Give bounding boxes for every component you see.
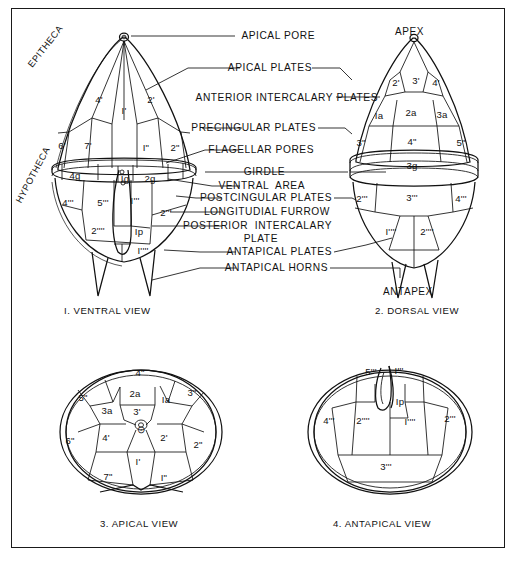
plate-label-v-4p: 4' — [95, 94, 103, 105]
plate-label-d-3a: 3a — [436, 109, 447, 120]
plate-label-d-1a: Ia — [375, 110, 383, 121]
plate-label-d-3p: 3' — [412, 75, 420, 86]
plate-label-a-1pp: I" — [161, 472, 167, 483]
plate-label-a-3pp: 3" — [187, 387, 196, 398]
label-antapex: ANTAPEX — [383, 286, 433, 297]
plate-label-d-2a: 2a — [405, 107, 416, 118]
plate-label-v-2pppp: 2'''' — [91, 225, 105, 236]
callout-longitudial-furrow: LONGITUDIAL FURROW — [204, 206, 330, 217]
caption-ventral-view: I. VENTRAL VIEW — [64, 305, 151, 316]
plate-label-v-2p: 2' — [147, 94, 155, 105]
callout-apical-pore: APICAL PORE — [241, 30, 315, 41]
plate-label-a-4pp: 4" — [135, 367, 144, 378]
plate-label-a-pore: ⊙ — [137, 424, 145, 435]
plate-label-ap-2pppp: 2'''' — [356, 415, 370, 426]
plate-label-a-3a: 3a — [101, 405, 112, 416]
figure-page: APICAL PORE APICAL PLATES ANTERIOR INTER… — [0, 0, 517, 563]
ventral-view-drawing — [52, 33, 196, 296]
plate-label-v-1p-post: Ip — [135, 226, 143, 237]
plate-label-d-3ppp: 3''' — [406, 192, 418, 203]
plate-label-v-2pp: 2" — [170, 142, 179, 153]
plate-label-ap-1p-post: Ip — [396, 396, 404, 407]
plate-label-d-1pppp: I'''' — [386, 226, 397, 237]
plate-label-a-5pp: 5" — [78, 392, 87, 403]
antapical-view-drawing — [308, 366, 472, 494]
plate-label-ap-2ppp: 2''' — [444, 413, 456, 424]
plate-label-d-5pp: 5" — [456, 137, 465, 148]
callout-apical-plates: APICAL PLATES — [228, 62, 312, 73]
plate-label-v-2ppp: 2''' — [160, 207, 172, 218]
plate-label-v-1pppp: I'''' — [138, 245, 149, 256]
caption-apical-view: 3. APICAL VIEW — [100, 518, 178, 529]
plate-label-a-4p: 4' — [102, 432, 110, 443]
plate-label-ap-1ppp: I''' — [395, 365, 404, 376]
plate-label-a-1a: Ia — [162, 394, 170, 405]
plate-label-a-2p: 2' — [160, 432, 168, 443]
plate-label-ap-1pppp: I'''' — [405, 416, 416, 427]
plate-label-v-1pp: I" — [143, 142, 149, 153]
plate-label-a-2pp: 2" — [193, 439, 202, 450]
callout-anterior-intercalary-plates: ANTERIOR INTERCALARY PLATES — [196, 92, 378, 103]
callout-posterior-intercalary-plate-line1: POSTERIOR INTERCALARY — [183, 220, 332, 231]
plate-label-d-3g: 3g — [406, 160, 417, 171]
plate-label-a-6pp: 6" — [65, 435, 74, 446]
plate-label-a-2a: 2a — [129, 388, 140, 399]
plate-label-v-1ppp: I''' — [131, 195, 140, 206]
plate-label-v-7p: 7' — [84, 140, 92, 151]
label-apex: APEX — [395, 26, 424, 37]
plate-label-v-6p: 6' — [58, 140, 66, 151]
plate-label-v-1g: Ig — [121, 173, 129, 184]
callout-antapical-horns: ANTAPICAL HORNS — [225, 262, 328, 273]
callout-posterior-intercalary-plate-line2: PLATE — [244, 233, 278, 244]
plate-label-d-2pppp: 2'''' — [420, 226, 434, 237]
callout-flagellar-pores: FLAGELLAR PORES — [208, 144, 314, 155]
plate-label-a-3p: 3' — [133, 406, 141, 417]
plate-label-v-4ppp: 4''' — [62, 197, 74, 208]
caption-dorsal-view: 2. DORSAL VIEW — [375, 305, 459, 316]
caption-antapical-view: 4. ANTAPICAL VIEW — [333, 518, 431, 529]
plate-label-d-2ppp: 2''' — [356, 193, 368, 204]
callout-precingular-plates: PRECINGULAR PLATES — [191, 122, 316, 133]
plate-label-v-5ppp: 5''' — [97, 197, 109, 208]
plate-label-v-2g: 2g — [144, 173, 155, 184]
plate-label-ap-3ppp: 3''' — [380, 461, 392, 472]
callout-postcingular-plates: POSTCINGULAR PLATES — [200, 192, 332, 203]
plate-label-ap-5ppp: 5''' — [365, 366, 377, 377]
plate-label-d-4ppp: 4''' — [455, 193, 467, 204]
plate-label-d-4pp: 4" — [407, 136, 416, 147]
plate-label-v-1p: I' — [122, 105, 127, 116]
plate-label-ap-4ppp: 4''' — [323, 415, 335, 426]
plate-label-a-1p: I' — [136, 456, 141, 467]
plate-label-d-3pp: 3" — [356, 137, 365, 148]
plate-label-d-2p: 2' — [392, 77, 400, 88]
callout-ventral-area: VENTRAL AREA — [218, 180, 305, 191]
callout-girdle: GIRDLE — [244, 166, 285, 177]
plate-label-a-7pp: 7" — [103, 471, 112, 482]
plate-label-d-4p: 4' — [432, 77, 440, 88]
callout-antapical-plates: ANTAPICAL PLATES — [227, 246, 332, 257]
plate-label-v-4g: 4g — [69, 170, 80, 181]
